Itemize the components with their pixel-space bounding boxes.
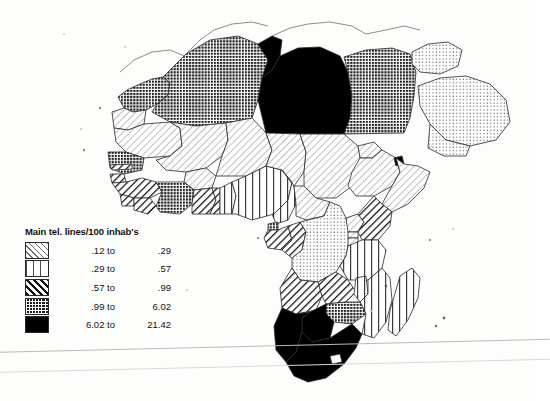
legend-from-value: .12 to bbox=[63, 245, 115, 256]
island-seychelles bbox=[429, 239, 431, 241]
map-legend: Main tel. lines/100 inhab's .12 to .29 .… bbox=[22, 226, 197, 334]
area-gambia bbox=[110, 164, 132, 170]
scan-speck bbox=[124, 46, 126, 48]
legend-row: 6.02 to 21.42 bbox=[22, 315, 197, 334]
legend-from-value: .99 to bbox=[63, 301, 115, 312]
legend-row: .57 to .99 bbox=[22, 278, 197, 297]
legend-swatch-hatch-dense bbox=[25, 279, 49, 296]
legend-title: Main tel. lines/100 inhab's bbox=[25, 226, 197, 237]
area-algeria bbox=[152, 36, 268, 126]
legend-to-value: 21.42 bbox=[125, 319, 171, 330]
legend-to-value: .57 bbox=[125, 263, 171, 274]
area-rwanda bbox=[348, 232, 358, 238]
island-mauritius bbox=[443, 317, 446, 320]
scan-speck bbox=[370, 310, 372, 312]
island-canary bbox=[99, 107, 101, 109]
area-lesotho bbox=[330, 354, 342, 364]
legend-swatch-stipple bbox=[25, 298, 49, 315]
legend-swatch-solid bbox=[25, 316, 49, 333]
legend-to-value: .99 bbox=[125, 282, 171, 293]
legend-swatch-vertical bbox=[25, 260, 49, 277]
area-liberia bbox=[134, 198, 156, 214]
legend-to-value: .29 bbox=[125, 245, 171, 256]
legend-row: .99 to 6.02 bbox=[22, 297, 197, 316]
island-reunion bbox=[435, 325, 437, 327]
area-eq-guinea bbox=[268, 222, 278, 230]
legend-swatch-hatch-light bbox=[25, 242, 49, 259]
island-cape-verde bbox=[83, 149, 85, 151]
area-egypt bbox=[344, 48, 416, 134]
scan-speck bbox=[452, 228, 454, 230]
legend-from-value: 6.02 to bbox=[63, 319, 115, 330]
legend-to-value: 6.02 bbox=[125, 301, 171, 312]
legend-from-value: .29 to bbox=[63, 263, 115, 274]
area-madagascar bbox=[388, 268, 420, 336]
area-levant bbox=[412, 42, 462, 74]
scan-speck bbox=[80, 128, 82, 130]
island-sao-tome bbox=[257, 237, 259, 239]
legend-from-value: .57 to bbox=[63, 282, 115, 293]
legend-row: .12 to .29 bbox=[22, 241, 197, 260]
area-guinea-bissau bbox=[110, 174, 126, 183]
legend-row: .29 to .57 bbox=[22, 260, 197, 279]
area-cote-divoire bbox=[156, 182, 194, 214]
scan-speck bbox=[63, 33, 65, 35]
island-comoros bbox=[385, 285, 388, 288]
